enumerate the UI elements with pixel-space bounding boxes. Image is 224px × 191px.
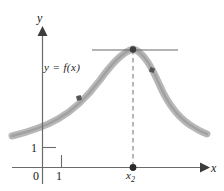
critical-point-subscript: 2 — [131, 175, 135, 184]
calculus-graph-figure: y x y = f(x) 0 1 1 x2 — [0, 0, 224, 191]
x-axis-label: x — [211, 162, 216, 174]
function-label: y = f(x) — [44, 62, 80, 73]
curve-band-inner-shade — [12, 49, 207, 136]
y-axis — [38, 26, 48, 184]
critical-point-label: x2 — [126, 170, 135, 184]
curve-band-outer — [12, 49, 207, 136]
graph-canvas — [0, 0, 224, 191]
y-axis-label: y — [37, 12, 42, 24]
maximum-point-marker — [130, 46, 136, 52]
origin-label: 0 — [33, 170, 39, 182]
y-tick-one-label: 1 — [31, 142, 37, 154]
x-axis-arrowhead — [200, 163, 210, 173]
x-axis — [12, 163, 210, 173]
y-axis-arrowhead — [38, 26, 48, 36]
x-tick-one-label: 1 — [56, 170, 62, 182]
function-curve-band — [12, 49, 207, 136]
